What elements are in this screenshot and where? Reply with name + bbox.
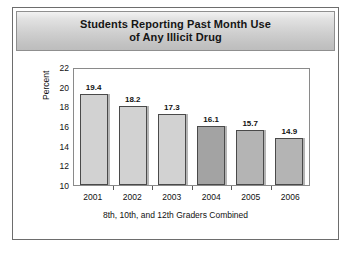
- x-axis-tick-labels: 200120022003200420052006: [73, 192, 310, 202]
- y-axis-tick-label: 12: [39, 161, 69, 171]
- bar: 17.3: [158, 114, 186, 185]
- y-axis-tick-label: 18: [39, 102, 69, 112]
- x-axis-tick-label: 2006: [271, 192, 310, 202]
- y-axis-tick-label: 16: [39, 122, 69, 132]
- x-axis-tick-label: 2003: [152, 192, 191, 202]
- bar-value-label: 14.9: [282, 127, 298, 136]
- x-axis-label: 8th, 10th, and 12th Graders Combined: [13, 210, 338, 220]
- x-axis-tick-label: 2004: [192, 192, 231, 202]
- bar-slot: 17.3: [152, 69, 191, 185]
- x-axis-tick-label: 2005: [231, 192, 270, 202]
- bar: 14.9: [275, 138, 303, 185]
- bar: 16.1: [197, 126, 225, 185]
- bar-value-label: 19.4: [86, 83, 102, 92]
- chart-title-line-2: of Any Illicit Drug: [129, 31, 222, 44]
- bar: 18.2: [119, 106, 147, 185]
- x-axis-tick-mark: [113, 186, 114, 190]
- x-axis-tick-label: 2001: [73, 192, 112, 202]
- x-axis-tick-mark: [231, 186, 232, 190]
- bar-value-label: 18.2: [125, 95, 141, 104]
- chart-title-line-1: Students Reporting Past Month Use: [80, 18, 271, 31]
- bar-slot: 14.9: [270, 69, 309, 185]
- chart-figure: Students Reporting Past Month Use of Any…: [12, 7, 339, 240]
- x-axis-tick-mark: [271, 186, 272, 190]
- y-axis-label: Percent: [41, 71, 51, 100]
- y-axis-tick-label: 10: [39, 181, 69, 191]
- bar-value-label: 16.1: [203, 115, 219, 124]
- y-axis-tick-label: 14: [39, 142, 69, 152]
- chart-title-banner: Students Reporting Past Month Use of Any…: [16, 11, 335, 51]
- x-axis-tick-label: 2002: [113, 192, 152, 202]
- bar: 15.7: [236, 130, 264, 185]
- x-axis-tick-mark: [192, 186, 193, 190]
- bar-value-label: 17.3: [164, 103, 180, 112]
- plot-area: 19.418.217.316.115.714.9: [73, 68, 310, 186]
- bar-value-label: 15.7: [242, 119, 258, 128]
- bar: 19.4: [80, 94, 108, 185]
- bar-series: 19.418.217.316.115.714.9: [74, 69, 309, 185]
- bar-slot: 16.1: [192, 69, 231, 185]
- bar-slot: 15.7: [231, 69, 270, 185]
- bar-slot: 19.4: [74, 69, 113, 185]
- x-axis-tick-mark: [152, 186, 153, 190]
- bar-slot: 18.2: [113, 69, 152, 185]
